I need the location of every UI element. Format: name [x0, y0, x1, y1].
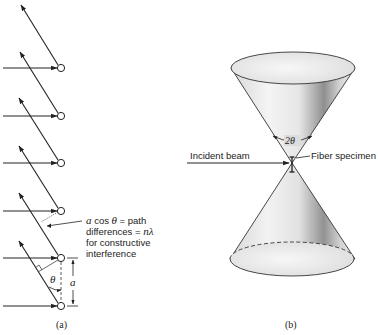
panel-a-lattice: θ a a cos θ = path differences = nλ for …: [3, 5, 154, 331]
incident-beam-label: Incident beam: [190, 150, 250, 161]
two-theta-label: 2θ: [285, 135, 295, 146]
annotation-line-2: differences = nλ: [86, 225, 154, 237]
fiber-specimen-label: Fiber specimen: [311, 150, 376, 161]
annotation-line-3: for constructive: [86, 237, 150, 248]
diffraction-diagram: θ a a cos θ = path differences = nλ for …: [0, 0, 378, 335]
theta-label: θ: [50, 273, 56, 285]
fiber-specimen-leader: [296, 156, 310, 158]
spacing-label: a: [70, 276, 76, 288]
panel-b-caption: (b): [285, 319, 297, 331]
annotation-leader: [47, 221, 82, 226]
panel-a-caption: (a): [56, 319, 67, 331]
annotation-line-1: a cos θ = path: [86, 214, 146, 226]
constructive-interference-annotation: a cos θ = path differences = nλ for cons…: [86, 214, 154, 259]
panel-b-diffraction-cones: 2θ Incident beam Fiber specimen (b): [187, 52, 376, 331]
incident-rays: [3, 68, 57, 306]
path-difference-perpendicular: [35, 212, 58, 272]
upper-cone-rim: [231, 52, 355, 84]
annotation-line-4: interference: [86, 248, 136, 259]
theta-angle-arc: [49, 287, 61, 290]
